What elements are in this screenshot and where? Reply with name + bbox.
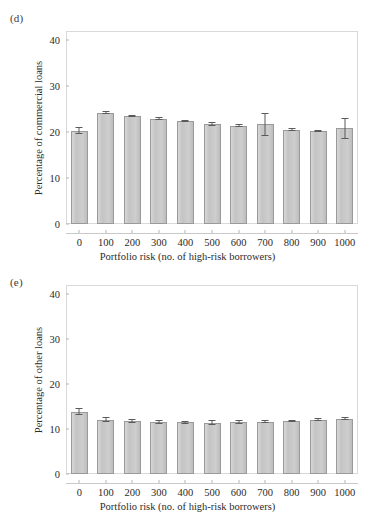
y-axis-tick-mark [66, 132, 69, 133]
bar [177, 121, 194, 224]
error-bar [286, 420, 298, 423]
x-axis-tick-mark [291, 480, 292, 483]
x-axis-tick-label: 700 [257, 237, 273, 248]
x-axis-tick-label: 1000 [334, 487, 355, 498]
error-bar [312, 418, 324, 422]
bar [336, 419, 353, 474]
chart-panel-e: (e)010203040Percentage of other loans010… [0, 262, 375, 504]
x-axis-tick-label: 900 [310, 237, 326, 248]
y-axis-tick-mark [66, 294, 69, 295]
x-axis-tick-mark [291, 230, 292, 233]
x-axis-tick-label: 600 [231, 237, 247, 248]
x-axis-tick-mark [212, 230, 213, 233]
x-axis-tick-mark [238, 480, 239, 483]
x-axis-tick-label: 200 [124, 237, 140, 248]
error-bar [153, 117, 165, 120]
x-axis-tick-label: 300 [151, 237, 167, 248]
bar [230, 422, 247, 474]
x-axis-tick-mark [318, 480, 319, 483]
x-axis-tick-mark [265, 480, 266, 483]
error-bar [259, 113, 271, 136]
x-axis-tick-label: 400 [178, 237, 194, 248]
x-axis-title: Portfolio risk (no. of high-risk borrowe… [0, 251, 375, 262]
x-axis-tick-label: 600 [231, 487, 247, 498]
error-bar [100, 111, 112, 114]
x-axis-tick-mark [238, 230, 239, 233]
x-axis-tick-mark [158, 480, 159, 483]
x-axis-tick-label: 700 [257, 487, 273, 498]
x-axis-tick-label: 200 [124, 487, 140, 498]
bar [97, 420, 114, 474]
bar [150, 422, 167, 474]
x-axis-tick-mark [212, 480, 213, 483]
x-axis-tick-mark [318, 230, 319, 233]
y-axis-tick-mark [66, 429, 69, 430]
bar [283, 421, 300, 474]
bar [336, 128, 353, 224]
y-axis-tick-label: 0 [0, 469, 60, 480]
x-axis-tick-label: 800 [284, 237, 300, 248]
x-axis-tick-label: 500 [204, 237, 220, 248]
x-axis-tick-mark [158, 230, 159, 233]
y-axis-tick-label: 20 [0, 379, 60, 390]
bar [204, 124, 221, 224]
error-bar [206, 420, 218, 425]
error-bar [312, 130, 324, 132]
y-axis-title: Percentage of other loans [33, 326, 44, 432]
y-axis-tick-mark [66, 178, 69, 179]
x-axis-tick-mark [132, 230, 133, 233]
bar [230, 126, 247, 224]
x-axis-tick-label: 100 [98, 237, 114, 248]
x-axis-tick-label: 0 [77, 237, 82, 248]
error-bar [286, 128, 298, 131]
bar [310, 131, 327, 224]
x-axis-tick-mark [344, 230, 345, 233]
y-axis-tick-label: 10 [0, 424, 60, 435]
y-axis-tick-mark [66, 224, 69, 225]
x-axis-tick-label: 1000 [334, 237, 355, 248]
x-axis-tick-label: 800 [284, 487, 300, 498]
y-axis-title: Percentage of commercial loans [33, 60, 44, 194]
error-bar [73, 408, 85, 415]
y-axis-tick-label: 30 [0, 334, 60, 345]
x-axis-tick-label: 300 [151, 487, 167, 498]
error-bar [179, 421, 191, 424]
error-bar [73, 127, 85, 134]
bar [150, 119, 167, 224]
error-bar [339, 417, 351, 421]
bar [204, 423, 221, 474]
y-axis-tick-mark [66, 474, 69, 475]
x-axis-tick-label: 100 [98, 487, 114, 498]
error-bar [259, 420, 271, 423]
y-axis-tick-mark [66, 339, 69, 340]
bar [71, 131, 88, 224]
bar [257, 124, 274, 224]
error-bar [126, 115, 138, 118]
x-axis-tick-mark [265, 230, 266, 233]
x-axis-line [66, 233, 358, 234]
x-axis-tick-mark [79, 230, 80, 233]
error-bar [233, 124, 245, 127]
x-axis-title: Portfolio risk (no. of high-risk borrowe… [0, 501, 375, 512]
chart-panel-d: (d)010203040Percentage of commercial loa… [0, 0, 375, 262]
panel-letter: (d) [10, 12, 23, 24]
x-axis-tick-mark [185, 230, 186, 233]
bar [124, 421, 141, 474]
bar [283, 130, 300, 224]
bar [257, 422, 274, 474]
bar [124, 116, 141, 224]
error-bar [153, 420, 165, 424]
y-axis-tick-label: 40 [0, 35, 60, 46]
bar [310, 420, 327, 474]
y-axis-tick-label: 10 [0, 173, 60, 184]
error-bar [233, 420, 245, 424]
x-axis-line [66, 483, 358, 484]
x-axis-tick-label: 900 [310, 487, 326, 498]
error-bar [179, 120, 191, 123]
x-axis-tick-label: 400 [178, 487, 194, 498]
y-axis-tick-label: 0 [0, 219, 60, 230]
bar [71, 412, 88, 474]
bar [177, 422, 194, 474]
x-axis-tick-mark [132, 480, 133, 483]
error-bar [206, 122, 218, 127]
